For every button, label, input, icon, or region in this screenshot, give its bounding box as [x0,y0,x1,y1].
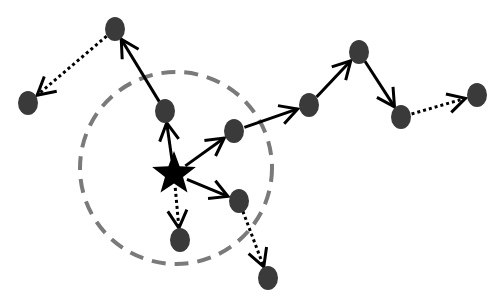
edge-S-D [185,138,224,166]
diagram-canvas [0,0,500,308]
node-E [299,93,319,117]
star-source-icon [152,151,196,193]
node-H [467,83,487,107]
edge-F-G [365,61,395,107]
edge-S-J [168,188,187,228]
edge-E-F [317,61,351,97]
node-A [105,17,125,41]
arrowhead-icon [249,247,267,267]
node-B [18,91,38,115]
graph-svg [0,0,500,308]
node-F [349,40,369,64]
node-C [155,99,175,123]
arrowhead-icon [377,87,395,107]
node-G [391,105,411,129]
edge-G-H [412,94,466,114]
edge-A-B [37,36,106,95]
solid-edge [121,39,159,101]
dotted-edge [37,36,106,95]
edge-C-A [121,39,159,101]
node-I [229,189,249,213]
edge-S-C [160,123,179,160]
node-J [170,228,190,252]
node-D [224,119,244,143]
node-K [258,266,278,290]
edge-S-I [187,179,228,198]
